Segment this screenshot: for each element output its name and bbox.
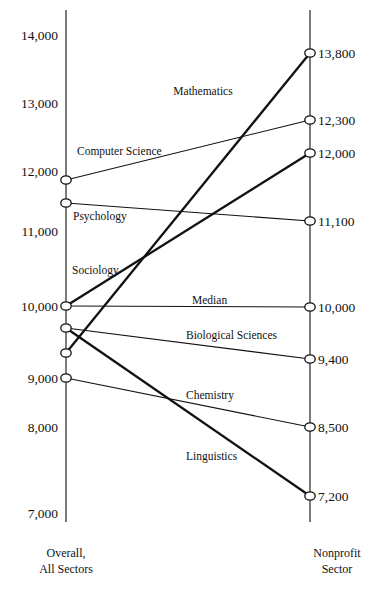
ytick-label-13000: 13,000 bbox=[21, 96, 58, 111]
series-label-linguistics: Linguistics bbox=[186, 450, 238, 463]
dot-right-sociology[interactable] bbox=[305, 149, 315, 157]
slopegraph-canvas: 14,000 13,000 12,000 11,000 10,000 9,000… bbox=[0, 0, 383, 595]
dot-left-median-sociology[interactable] bbox=[61, 302, 71, 310]
series-label-computer-science: Computer Science bbox=[77, 145, 162, 158]
ytick-label-8000: 8,000 bbox=[28, 420, 59, 435]
right-value-12000: 12,000 bbox=[318, 146, 355, 161]
ytick-label-11000: 11,000 bbox=[21, 224, 58, 239]
dot-left-mathematics[interactable] bbox=[61, 349, 71, 357]
left-axis-caption-line2: All Sectors bbox=[39, 562, 93, 576]
dot-right-psychology[interactable] bbox=[305, 217, 315, 225]
series-label-biological-sciences: Biological Sciences bbox=[186, 329, 278, 342]
left-axis-caption-line1: Overall, bbox=[47, 546, 86, 560]
dot-left-psychology[interactable] bbox=[61, 199, 71, 207]
dot-right-median[interactable] bbox=[305, 303, 315, 311]
series-label-psychology: Psychology bbox=[73, 210, 127, 223]
right-value-7200: 7,200 bbox=[318, 489, 349, 504]
ytick-label-14000: 14,000 bbox=[21, 28, 58, 43]
dot-right-linguistics[interactable] bbox=[305, 492, 315, 500]
dot-right-computer-science[interactable] bbox=[305, 116, 315, 124]
dot-right-biological-sciences[interactable] bbox=[305, 355, 315, 363]
right-value-13800: 13,800 bbox=[318, 46, 355, 61]
slope-line-linguistics[interactable] bbox=[66, 328, 310, 496]
right-axis-caption-line2: Sector bbox=[322, 562, 353, 576]
series-label-chemistry: Chemistry bbox=[186, 389, 234, 402]
dot-left-biological-sciences-linguistics[interactable] bbox=[61, 324, 71, 332]
dot-left-computer-science[interactable] bbox=[61, 176, 71, 184]
series-label-sociology: Sociology bbox=[72, 264, 119, 277]
right-value-9400: 9,400 bbox=[318, 352, 349, 367]
right-axis-caption-line1: Nonprofit bbox=[313, 546, 361, 560]
dot-left-chemistry[interactable] bbox=[61, 374, 71, 382]
series-label-median: Median bbox=[192, 294, 227, 306]
dot-right-mathematics[interactable] bbox=[305, 49, 315, 57]
slopegraph-chart: 14,000 13,000 12,000 11,000 10,000 9,000… bbox=[0, 0, 383, 595]
right-value-10000: 10,000 bbox=[318, 300, 355, 315]
right-value-12300: 12,300 bbox=[318, 113, 355, 128]
slope-line-mathematics[interactable] bbox=[66, 53, 310, 353]
ytick-label-12000: 12,000 bbox=[21, 164, 58, 179]
dot-right-chemistry[interactable] bbox=[305, 423, 315, 431]
ytick-label-7000: 7,000 bbox=[28, 506, 59, 521]
right-value-8500: 8,500 bbox=[318, 420, 349, 435]
series-label-mathematics: Mathematics bbox=[173, 85, 233, 97]
ytick-label-10000: 10,000 bbox=[21, 299, 58, 314]
right-value-11100: 11,100 bbox=[318, 214, 355, 229]
slope-line-chemistry[interactable] bbox=[66, 378, 310, 427]
slope-line-sociology[interactable] bbox=[66, 153, 310, 306]
ytick-label-9000: 9,000 bbox=[28, 371, 59, 386]
